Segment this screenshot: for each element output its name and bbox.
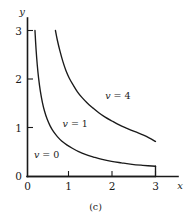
curve-label-v-4: v = 4 xyxy=(105,90,130,101)
x-axis-ticks xyxy=(69,171,156,177)
x-axis-label: x xyxy=(177,180,183,191)
y-tick-label-3: 3 xyxy=(15,25,22,37)
x-tick-label-1: 1 xyxy=(65,180,72,192)
y-axis-ticks xyxy=(28,31,34,128)
curve-label-v-0: v = 0 xyxy=(34,149,59,160)
curve-annotations: v = 0 v = 1 v = 4 xyxy=(34,90,131,160)
figure-panel-c: 3 2 1 0 0 1 2 3 y x v = 0 v = 1 v = 4 xyxy=(0,0,191,215)
x-tick-label-0: 0 xyxy=(24,180,31,192)
y-tick-label-1: 1 xyxy=(15,122,22,134)
plot-area: 3 2 1 0 0 1 2 3 y x v = 0 v = 1 v = 4 xyxy=(0,0,191,215)
y-axis-label: y xyxy=(18,6,25,17)
y-tick-label-0: 0 xyxy=(15,170,22,182)
curve-v-1 xyxy=(35,31,156,167)
figure-caption: (c) xyxy=(0,201,191,212)
curve-label-v-1-rest: = 1 xyxy=(68,118,88,129)
y-tick-label-2: 2 xyxy=(15,73,22,85)
curve-label-v-1: v = 1 xyxy=(62,118,87,129)
x-tick-label-2: 2 xyxy=(109,180,116,192)
curve-label-v-0-rest: = 0 xyxy=(39,149,59,160)
curve-label-v-4-rest: = 4 xyxy=(111,90,131,101)
x-tick-label-3: 3 xyxy=(152,180,159,192)
